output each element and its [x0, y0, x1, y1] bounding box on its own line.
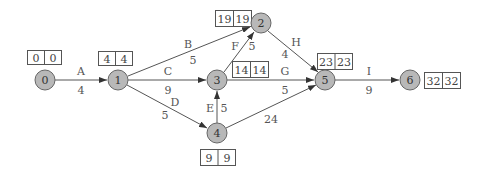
latest-time: 0: [50, 52, 57, 65]
earliest-time: 9: [206, 152, 213, 165]
edge-F-activity: F: [231, 40, 239, 53]
edge-G-duration: 5: [282, 84, 289, 97]
node-label: 1: [115, 74, 122, 87]
time-box-node-4: 9 9: [201, 150, 236, 166]
edge-A-duration: 4: [78, 84, 85, 97]
latest-time: 19: [236, 13, 250, 26]
edge-E-activity: E: [206, 102, 214, 115]
latest-time: 4: [121, 53, 128, 66]
earliest-time: 19: [218, 13, 232, 26]
latest-time: 9: [224, 152, 231, 165]
node-label: 4: [214, 127, 221, 140]
edge-G-activity: G: [281, 65, 290, 78]
node-5: 5: [315, 70, 335, 90]
time-box-node-1: 4 4: [99, 52, 133, 66]
edge-F-duration: 5: [249, 40, 256, 53]
edge-E-duration: 5: [221, 102, 228, 115]
latest-time: 32: [445, 75, 459, 88]
latest-time: 14: [253, 64, 267, 77]
edge-C-activity: C: [164, 65, 172, 78]
node-label: 0: [42, 74, 49, 87]
edge-D-duration: 5: [162, 109, 169, 122]
nodes: 0 1 2 3 4 5 6: [35, 13, 420, 143]
node-4: 4: [207, 123, 227, 143]
earliest-time: 32: [427, 75, 441, 88]
time-box-node-5: 23 23: [318, 54, 353, 70]
edge-H-activity: H: [291, 36, 301, 49]
node-label: 5: [322, 74, 329, 87]
time-box-node-2: 19 19: [216, 11, 252, 27]
edge-24-duration: 24: [264, 113, 278, 126]
node-label: 2: [258, 17, 265, 30]
node-label: 3: [214, 74, 221, 87]
time-boxes: 0 0 4 4 19 19 14 14 9 9: [28, 11, 461, 166]
node-1: 1: [108, 70, 128, 90]
earliest-time: 4: [104, 53, 111, 66]
edge-H-duration: 4: [282, 48, 289, 61]
time-box-node-3: 14 14: [233, 62, 269, 78]
node-3: 3: [207, 70, 227, 90]
earliest-time: 14: [235, 64, 249, 77]
latest-time: 23: [337, 56, 351, 69]
node-2: 2: [251, 13, 271, 33]
node-6: 6: [400, 70, 420, 90]
network-diagram: A 4 B 5 C 9 D 5 E 5 F 5 G 5 H 4 24 I 9 0…: [0, 0, 483, 177]
edge-B-duration: 5: [190, 54, 197, 67]
edge-I-duration: 9: [366, 84, 373, 97]
edge-A-activity: A: [76, 65, 86, 78]
time-box-node-0: 0 0: [28, 51, 62, 65]
node-0: 0: [35, 70, 55, 90]
edge-I-activity: I: [367, 65, 371, 78]
edge-D-activity: D: [171, 96, 180, 109]
edge-B-activity: B: [184, 38, 192, 51]
earliest-time: 0: [33, 52, 40, 65]
node-label: 6: [407, 74, 414, 87]
time-box-node-6: 32 32: [425, 73, 461, 89]
earliest-time: 23: [319, 56, 333, 69]
